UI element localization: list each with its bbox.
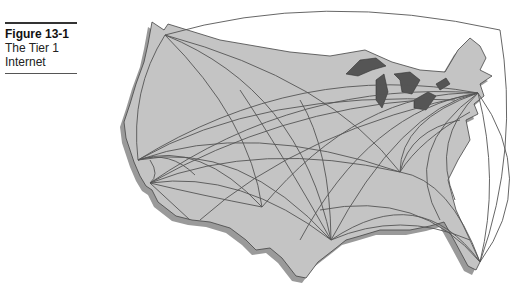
- us-landmass: [124, 22, 492, 278]
- tier1-internet-map: [0, 0, 528, 293]
